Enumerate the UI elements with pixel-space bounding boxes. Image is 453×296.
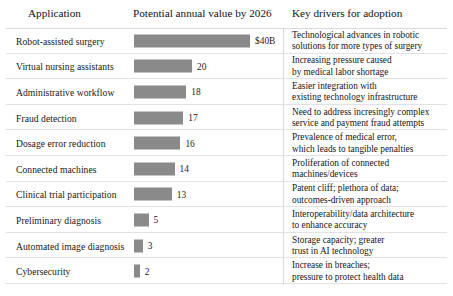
key-drivers-line: to enhance accuracy <box>292 220 449 231</box>
value-label: 18 <box>191 87 200 97</box>
key-drivers-line: Patent cliff; plethora of data; <box>292 183 449 194</box>
table-row: Robot-assisted surgery$40BTechnological … <box>0 28 453 54</box>
table-row: Preliminary diagnosis5Interoperability/d… <box>0 207 453 233</box>
value-bar-group: 16 <box>134 137 195 150</box>
value-bar-group: 14 <box>134 162 189 175</box>
value-label: $40B <box>255 36 275 46</box>
value-bar <box>134 60 192 73</box>
value-bar <box>134 265 140 278</box>
table-row: Automated image diagnosis3Storage capaci… <box>0 233 453 259</box>
key-drivers-text: Increase in breaches;pressure to protect… <box>292 260 449 283</box>
key-drivers-line: Need to address incresingly complex <box>292 106 449 117</box>
value-label: 2 <box>145 266 150 276</box>
value-bar <box>134 85 186 98</box>
key-drivers-line: machines/devices <box>292 169 449 180</box>
value-bar-group: 18 <box>134 85 201 98</box>
value-label: 5 <box>154 215 159 225</box>
table-row: Virtual nursing assistants20Increasing p… <box>0 54 453 80</box>
key-drivers-text: Increasing pressure causedby medical lab… <box>292 55 449 78</box>
key-drivers-line: Easier integration with <box>292 81 449 92</box>
value-bar <box>134 239 143 252</box>
application-label: Automated image diagnosis <box>16 240 124 251</box>
application-label: Preliminary diagnosis <box>16 214 101 225</box>
table-body: Robot-assisted surgery$40BTechnological … <box>0 28 453 284</box>
application-label: Administrative workflow <box>16 86 114 97</box>
key-drivers-text: Interoperability/data architectureto enh… <box>292 209 449 232</box>
table-row: Connected machines14Proliferation of con… <box>0 156 453 182</box>
key-drivers-text: Easier integration withexisting technolo… <box>292 81 449 104</box>
application-label: Clinical trial participation <box>16 189 117 200</box>
application-label: Connected machines <box>16 163 97 174</box>
key-drivers-text: Patent cliff; plethora of data;outcomes-… <box>292 183 449 206</box>
key-drivers-line: solutions for more types of surgery <box>292 41 449 52</box>
value-bar <box>134 188 172 201</box>
key-drivers-text: Prevalence of medical error,which leads … <box>292 132 449 155</box>
column-header-key-drivers: Key drivers for adoption <box>292 7 402 19</box>
value-bar-group: 5 <box>134 213 158 226</box>
table-row: Dosage error reduction16Prevalence of me… <box>0 130 453 156</box>
key-drivers-line: by medical labor shortage <box>292 66 449 77</box>
value-label: 13 <box>177 189 186 199</box>
key-drivers-text: Need to address incresingly complexservi… <box>292 106 449 129</box>
key-drivers-text: Technological advances in roboticsolutio… <box>292 29 449 52</box>
value-bar-group: 3 <box>134 239 152 252</box>
value-label: 14 <box>180 164 189 174</box>
value-bar-group: 13 <box>134 188 186 201</box>
application-label: Dosage error reduction <box>16 138 106 149</box>
value-bar <box>134 111 183 124</box>
table-row: Cybersecurity2Increase in breaches;press… <box>0 258 453 284</box>
column-header-potential-value: Potential annual value by 2026 <box>133 7 272 19</box>
value-bar <box>134 213 149 226</box>
key-drivers-line: which leads to tangible penalties <box>292 143 449 154</box>
value-bar-group: 17 <box>134 111 198 124</box>
key-drivers-line: Storage capacity; greater <box>292 234 449 245</box>
application-label: Cybersecurity <box>16 266 70 277</box>
table-header: Application Potential annual value by 20… <box>0 0 453 28</box>
value-label: 20 <box>197 61 206 71</box>
key-drivers-line: existing technology infrastructure <box>292 92 449 103</box>
key-drivers-line: Increase in breaches; <box>292 260 449 271</box>
value-label: 16 <box>185 138 194 148</box>
table-row: Clinical trial participation13Patent cli… <box>0 182 453 208</box>
application-label: Fraud detection <box>16 112 77 123</box>
key-drivers-text: Proliferation of connectedmachines/devic… <box>292 157 449 180</box>
key-drivers-line: Prevalence of medical error, <box>292 132 449 143</box>
key-drivers-line: outcomes-driven approach <box>292 194 449 205</box>
table-row: Fraud detection17Need to address incresi… <box>0 105 453 131</box>
key-drivers-line: pressure to protect health data <box>292 271 449 282</box>
column-header-application: Application <box>28 7 81 19</box>
table-row: Administrative workflow18Easier integrat… <box>0 79 453 105</box>
application-label: Robot-assisted surgery <box>16 35 105 46</box>
value-bar <box>134 162 175 175</box>
value-label: 17 <box>188 113 197 123</box>
row-divider <box>6 283 447 284</box>
value-label: 3 <box>148 241 153 251</box>
value-bar-group: 2 <box>134 265 149 278</box>
key-drivers-text: Storage capacity; greatertrust in AI tec… <box>292 234 449 257</box>
application-label: Virtual nursing assistants <box>16 61 114 72</box>
key-drivers-line: Technological advances in robotic <box>292 29 449 40</box>
key-drivers-line: service and payment fraud attempts <box>292 118 449 129</box>
key-drivers-line: Interoperability/data architecture <box>292 209 449 220</box>
value-bar-group: $40B <box>134 34 275 47</box>
value-bar-group: 20 <box>134 60 206 73</box>
key-drivers-line: Proliferation of connected <box>292 157 449 168</box>
value-bar <box>134 137 180 150</box>
key-drivers-line: Increasing pressure caused <box>292 55 449 66</box>
value-bar <box>134 34 250 47</box>
key-drivers-line: trust in AI technology <box>292 246 449 257</box>
ai-healthcare-value-table: Application Potential annual value by 20… <box>0 0 453 296</box>
